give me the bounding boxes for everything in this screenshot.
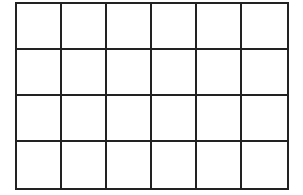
grid-cell: [62, 142, 107, 188]
grid-cell: [197, 50, 242, 96]
grid-cell: [107, 4, 152, 50]
grid-cell: [62, 96, 107, 142]
grid-cell: [17, 50, 62, 96]
grid-cell: [197, 96, 242, 142]
grid-cell: [62, 50, 107, 96]
grid-cell: [242, 4, 287, 50]
grid-cell: [197, 142, 242, 188]
grid-cell: [17, 4, 62, 50]
grid-cell: [107, 142, 152, 188]
grid-cell: [152, 96, 197, 142]
grid-cell: [242, 50, 287, 96]
canvas: [0, 0, 303, 195]
grid-cell: [152, 142, 197, 188]
grid-cell: [107, 96, 152, 142]
grid-cell: [152, 4, 197, 50]
grid-cell: [62, 4, 107, 50]
grid-cell: [197, 4, 242, 50]
grid-cell: [152, 50, 197, 96]
grid-cell: [17, 96, 62, 142]
grid-cell: [242, 96, 287, 142]
empty-grid: [15, 2, 289, 190]
grid-cell: [242, 142, 287, 188]
grid-cell: [107, 50, 152, 96]
grid-cell: [17, 142, 62, 188]
